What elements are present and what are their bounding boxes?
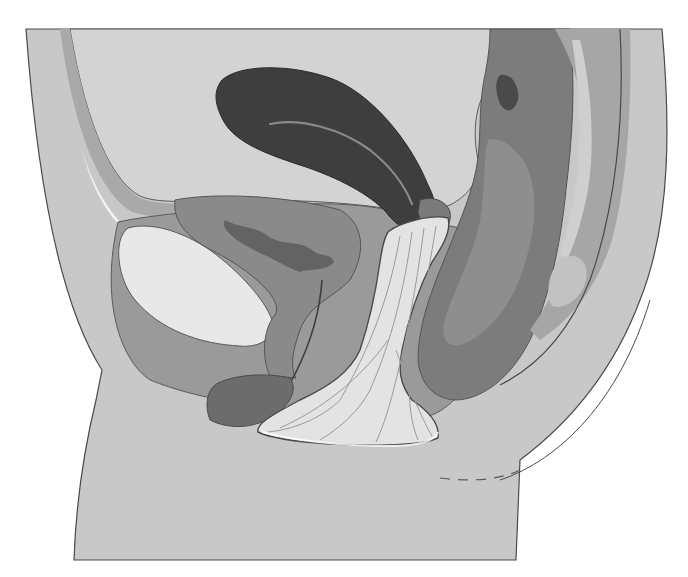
pelvic-cross-section-figure (0, 0, 688, 577)
anatomy-illustration (0, 0, 688, 577)
